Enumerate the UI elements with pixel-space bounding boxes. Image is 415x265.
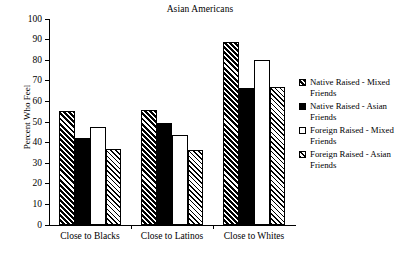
legend-label-line1: Native Raised - Asian (310, 101, 415, 112)
bar (254, 60, 270, 225)
y-tick-mark (45, 183, 49, 184)
legend-label-line2: Friends (310, 88, 415, 99)
y-tick-mark (45, 142, 49, 143)
x-tick-mark (131, 225, 132, 229)
legend-label-line1: Foreign Raised - Asian (310, 149, 415, 160)
x-axis-category-label: Close to Latinos (131, 231, 213, 241)
y-tick-label: 30 (33, 157, 43, 169)
y-tick-mark (45, 101, 49, 102)
plot-area: 1009080706050403020100 (49, 19, 295, 225)
y-tick-label: 70 (33, 74, 43, 86)
y-tick-mark (45, 19, 49, 20)
legend-entry[interactable]: Foreign Raised - AsianFriends (299, 149, 415, 170)
chart-legend: Native Raised - MixedFriendsNative Raise… (299, 77, 415, 173)
bar (270, 87, 286, 225)
x-axis-line (49, 225, 296, 226)
y-tick-mark (45, 60, 49, 61)
bar (239, 88, 255, 225)
y-tick-label: 80 (33, 54, 43, 66)
x-axis-category-label: Close to Blacks (49, 231, 131, 241)
y-tick-label: 60 (33, 95, 43, 107)
legend-entry[interactable]: Native Raised - AsianFriends (299, 101, 415, 122)
bar (90, 127, 106, 225)
chart-title: Asian Americans (120, 4, 280, 14)
bar (172, 135, 188, 225)
legend-label-line2: Friends (310, 136, 415, 147)
legend-label-line2: Friends (310, 112, 415, 123)
legend-swatch-icon (299, 79, 306, 86)
y-tick-label: 90 (33, 33, 43, 45)
y-tick-mark (45, 163, 49, 164)
y-tick-mark (45, 225, 49, 226)
y-tick-mark (45, 80, 49, 81)
y-tick-mark (45, 204, 49, 205)
legend-label-line1: Foreign Raised - Mixed (310, 125, 415, 136)
legend-swatch-icon (299, 103, 306, 110)
bar (223, 42, 239, 225)
legend-swatch-icon (299, 127, 306, 134)
chart-figure: Asian Americans Percent Who Feel 1009080… (0, 0, 415, 265)
y-tick-mark (45, 39, 49, 40)
bar (75, 138, 91, 225)
legend-swatch-icon (299, 151, 306, 158)
y-tick-label: 40 (33, 136, 43, 148)
x-tick-mark (213, 225, 214, 229)
bar (157, 123, 173, 225)
bar (59, 111, 75, 225)
y-axis-label: Percent Who Feel (22, 47, 32, 187)
bar (106, 149, 122, 225)
legend-label-line2: Friends (310, 160, 415, 171)
bar (188, 150, 204, 225)
y-tick-label: 10 (33, 198, 43, 210)
y-tick-mark (45, 122, 49, 123)
x-axis-category-label: Close to Whites (213, 231, 295, 241)
legend-entry[interactable]: Native Raised - MixedFriends (299, 77, 415, 98)
y-tick-label: 0 (37, 219, 42, 231)
legend-entry[interactable]: Foreign Raised - MixedFriends (299, 125, 415, 146)
y-tick-label: 100 (28, 13, 42, 25)
y-tick-label: 20 (33, 177, 43, 189)
bar (141, 110, 157, 225)
legend-label-line1: Native Raised - Mixed (310, 77, 415, 88)
y-tick-label: 50 (33, 116, 43, 128)
